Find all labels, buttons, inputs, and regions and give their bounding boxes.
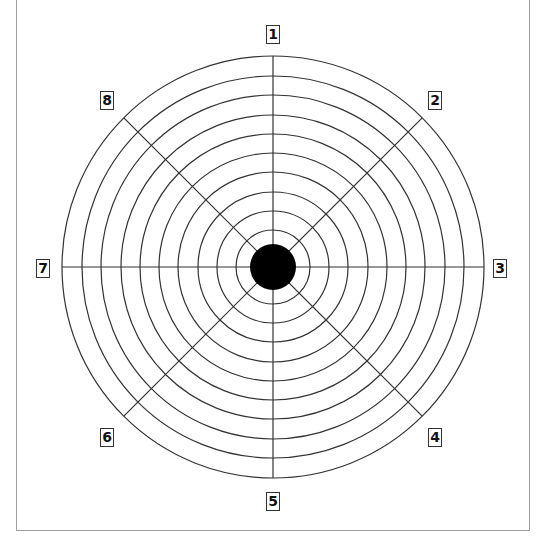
target-diagram bbox=[0, 0, 546, 552]
sector-label-8: 8 bbox=[100, 91, 114, 110]
sector-label-3: 3 bbox=[493, 259, 507, 278]
sector-label-4: 4 bbox=[428, 428, 442, 447]
bullseye bbox=[250, 244, 296, 290]
sector-label-1: 1 bbox=[266, 25, 280, 44]
sector-label-2: 2 bbox=[428, 91, 442, 110]
sector-label-7: 7 bbox=[36, 259, 50, 278]
sector-label-6: 6 bbox=[100, 428, 114, 447]
sector-label-5: 5 bbox=[266, 492, 280, 511]
